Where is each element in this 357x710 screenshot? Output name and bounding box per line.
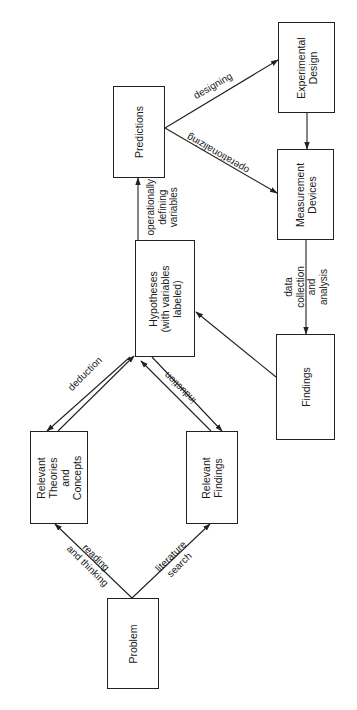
edge-label-operationally: operationally defining variables: [145, 167, 180, 247]
node-label: Predictions: [133, 106, 145, 158]
node-label: Measurement Devices: [294, 162, 318, 226]
node-problem: Problem: [107, 598, 159, 689]
edge-relfindings-hypotheses: [141, 361, 211, 431]
node-predictions: Predictions: [113, 86, 165, 178]
node-label: Problem: [127, 624, 139, 663]
node-findings: Findings: [276, 334, 335, 440]
node-label: Hypotheses (with variables labeled): [147, 265, 183, 332]
edge-label-data-collection: data collection and analysis: [283, 247, 329, 327]
node-measurement-devices: Measurement Devices: [277, 149, 334, 240]
node-label: Findings: [300, 367, 312, 407]
node-label: Relevant Findings: [200, 457, 224, 498]
edge-findings-hypotheses: [196, 312, 276, 377]
node-relevant-theories: Relevant Theories and Concepts: [30, 431, 88, 524]
node-label: Experimental Design: [295, 37, 319, 98]
node-hypotheses: Hypotheses (with variables labeled): [135, 240, 195, 357]
node-label: Relevant Theories and Concepts: [35, 455, 83, 499]
node-relevant-findings: Relevant Findings: [186, 431, 238, 524]
node-experimental-design: Experimental Design: [278, 22, 335, 113]
edge-predictions-expdesign: [165, 60, 278, 128]
